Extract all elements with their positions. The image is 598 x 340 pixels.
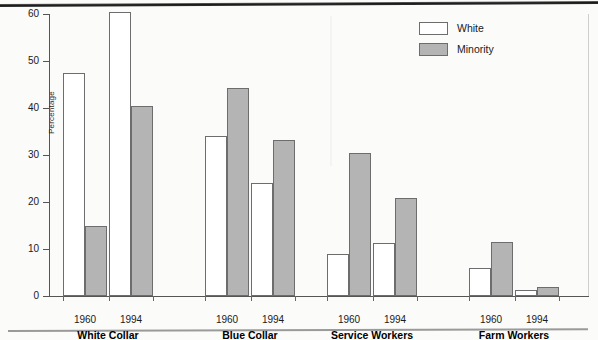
y-axis-line: [49, 14, 50, 296]
x-label-blue-collar-1960: 1960: [216, 314, 238, 326]
bar-blue-collar-1960-minority: [227, 88, 249, 296]
x-tick-blue-collar-1994: [251, 296, 252, 301]
legend-item-minority[interactable]: Minority: [419, 40, 559, 58]
x-tick-service-workers-1960: [327, 296, 328, 301]
x-label-farm-workers-1994: 1994: [526, 314, 548, 326]
y-tick-40: 40: [43, 108, 49, 109]
x-axis-line: [49, 296, 589, 297]
bar-service-workers-1960-minority: [349, 153, 371, 296]
legend-label-white: White: [457, 22, 484, 34]
x-tick-white-collar-1960: [63, 296, 64, 301]
x-tick-farm-workers-1960: [469, 296, 470, 301]
x-tick-end-blue-collar: [295, 296, 296, 301]
bar-farm-workers-1960-white: [469, 268, 491, 296]
x-label-white-collar-1994: 1994: [120, 314, 142, 326]
bar-farm-workers-1994-minority: [537, 287, 559, 296]
x-tick-service-workers-1994: [373, 296, 374, 301]
bar-white-collar-1960-white: [63, 73, 85, 296]
bar-white-collar-1994-white: [109, 12, 131, 296]
y-tick-label-50: 50: [28, 54, 39, 67]
bar-white-collar-1960-minority: [85, 226, 107, 297]
x-tick-end-white-collar: [153, 296, 154, 301]
x-label-service-workers-1994: 1994: [384, 314, 406, 326]
y-axis-title: Percentage: [47, 91, 56, 134]
x-group-label-service-workers: Service Workers: [331, 329, 413, 340]
x-label-white-collar-1960: 1960: [74, 314, 96, 326]
x-label-service-workers-1960: 1960: [338, 314, 360, 326]
y-tick-30: 30: [43, 155, 49, 156]
x-group-label-farm-workers: Farm Workers: [479, 329, 549, 340]
x-tick-end-farm-workers: [559, 296, 560, 301]
bar-service-workers-1994-minority: [395, 198, 417, 296]
chart-legend: White Minority: [419, 19, 559, 61]
bar-service-workers-1994-white: [373, 243, 395, 296]
y-tick-10: 10: [43, 249, 49, 250]
bar-farm-workers-1994-white: [515, 290, 537, 296]
y-tick-50: 50: [43, 61, 49, 62]
x-group-label-blue-collar: Blue Collar: [222, 329, 277, 340]
bar-farm-workers-1960-minority: [491, 242, 513, 296]
y-tick-label-0: 0: [33, 289, 39, 302]
x-tick-farm-workers-1994: [515, 296, 516, 301]
page-rule-top: [0, 1, 598, 7]
legend-swatch-white-icon: [419, 22, 448, 35]
x-label-farm-workers-1960: 1960: [480, 314, 502, 326]
y-tick-0: 0: [43, 296, 49, 297]
y-tick-label-40: 40: [28, 101, 39, 114]
x-tick-white-collar-1994: [109, 296, 110, 301]
y-tick-label-10: 10: [28, 242, 39, 255]
bar-white-collar-1994-minority: [131, 106, 153, 296]
y-tick-label-60: 60: [28, 7, 39, 20]
bar-blue-collar-1960-white: [205, 136, 227, 296]
y-tick-label-30: 30: [28, 148, 39, 161]
bar-service-workers-1960-white: [327, 254, 349, 296]
x-tick-end-service-workers: [417, 296, 418, 301]
x-label-blue-collar-1994: 1994: [262, 314, 284, 326]
y-tick-60: 60: [43, 14, 49, 15]
plot-right-edge: [588, 14, 589, 296]
x-group-label-white-collar: White Collar: [77, 329, 138, 340]
legend-swatch-minority-icon: [419, 43, 448, 56]
legend-label-minority: Minority: [457, 43, 494, 55]
x-tick-blue-collar-1960: [205, 296, 206, 301]
legend-item-white[interactable]: White: [419, 19, 559, 37]
y-tick-20: 20: [43, 202, 49, 203]
bar-blue-collar-1994-white: [251, 183, 273, 296]
bar-blue-collar-1994-minority: [273, 140, 295, 297]
y-tick-label-20: 20: [28, 195, 39, 208]
